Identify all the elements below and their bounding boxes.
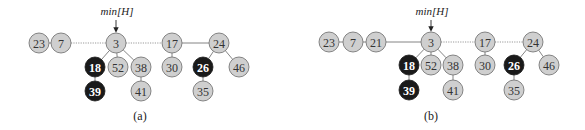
node-key: 26 bbox=[197, 61, 209, 75]
node-key: 30 bbox=[166, 61, 178, 75]
node-key: 39 bbox=[403, 84, 415, 98]
node-key: 18 bbox=[403, 59, 415, 73]
node-key: 24 bbox=[527, 36, 539, 50]
node-41: 41 bbox=[443, 80, 463, 100]
node-key: 7 bbox=[58, 37, 64, 51]
node-26: 26 bbox=[193, 57, 213, 77]
node-17: 17 bbox=[162, 33, 182, 53]
node-key: 39 bbox=[89, 85, 101, 99]
node-52: 52 bbox=[421, 55, 441, 75]
node-key: 26 bbox=[508, 59, 520, 73]
node-key: 41 bbox=[447, 84, 459, 98]
node-key: 18 bbox=[89, 61, 101, 75]
node-24: 24 bbox=[523, 32, 543, 52]
node-key: 46 bbox=[543, 59, 555, 73]
node-key: 41 bbox=[135, 85, 147, 99]
node-key: 38 bbox=[135, 61, 147, 75]
edge-3-18 bbox=[102, 51, 110, 60]
node-23: 23 bbox=[29, 33, 49, 53]
node-46: 46 bbox=[539, 55, 559, 75]
edge-24-46 bbox=[225, 51, 232, 60]
node-24: 24 bbox=[209, 33, 229, 53]
node-key: 17 bbox=[479, 36, 491, 50]
node-key: 3 bbox=[428, 36, 434, 50]
node-key: 21 bbox=[370, 36, 382, 50]
node-35: 35 bbox=[504, 80, 524, 100]
edge-24-26 bbox=[520, 50, 526, 58]
panel-b: 2372131724185238302646394135min[H](b) bbox=[319, 5, 559, 123]
node-3: 3 bbox=[106, 33, 126, 53]
node-46: 46 bbox=[229, 57, 249, 77]
edge-3-38 bbox=[438, 49, 446, 58]
edge-24-26 bbox=[209, 51, 214, 58]
node-39: 39 bbox=[85, 81, 105, 101]
node-18: 18 bbox=[85, 57, 105, 77]
node-key: 17 bbox=[166, 37, 178, 51]
panel-a: 23731724185238302646394135min[H](a) bbox=[29, 5, 249, 123]
node-30: 30 bbox=[475, 55, 495, 75]
node-7: 7 bbox=[343, 32, 363, 52]
node-7: 7 bbox=[51, 33, 71, 53]
node-key: 23 bbox=[33, 37, 45, 51]
panel-caption: (b) bbox=[424, 109, 438, 123]
node-key: 23 bbox=[323, 36, 335, 50]
node-41: 41 bbox=[131, 81, 151, 101]
edge-24-46 bbox=[539, 50, 544, 57]
node-key: 52 bbox=[425, 59, 437, 73]
node-key: 7 bbox=[350, 36, 356, 50]
node-key: 3 bbox=[113, 37, 119, 51]
node-23: 23 bbox=[319, 32, 339, 52]
edge-3-18 bbox=[416, 49, 424, 58]
node-key: 35 bbox=[197, 85, 209, 99]
node-key: 38 bbox=[447, 59, 459, 73]
node-key: 35 bbox=[508, 84, 520, 98]
node-38: 38 bbox=[131, 57, 151, 77]
node-key: 52 bbox=[112, 61, 124, 75]
node-key: 30 bbox=[479, 59, 491, 73]
node-52: 52 bbox=[108, 57, 128, 77]
node-key: 46 bbox=[233, 61, 245, 75]
edge-3-38 bbox=[123, 50, 134, 60]
node-30: 30 bbox=[162, 57, 182, 77]
node-39: 39 bbox=[399, 80, 419, 100]
node-17: 17 bbox=[475, 32, 495, 52]
node-18: 18 bbox=[399, 55, 419, 75]
node-35: 35 bbox=[193, 81, 213, 101]
min-pointer-label: min[H] bbox=[100, 5, 133, 17]
node-key: 24 bbox=[213, 37, 225, 51]
fibonacci-heap-diagram: 23731724185238302646394135min[H](a) 2372… bbox=[0, 0, 585, 130]
min-pointer-label: min[H] bbox=[415, 5, 448, 17]
panel-caption: (a) bbox=[133, 109, 146, 123]
node-38: 38 bbox=[443, 55, 463, 75]
node-3: 3 bbox=[421, 32, 441, 52]
node-26: 26 bbox=[504, 55, 524, 75]
node-21: 21 bbox=[366, 32, 386, 52]
